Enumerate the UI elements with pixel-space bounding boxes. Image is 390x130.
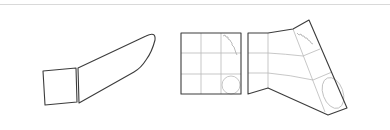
diagram-canvas [0,0,390,130]
elongated-shape [78,34,155,103]
warped-grid-outline [248,20,347,115]
grid-circle [222,76,240,94]
grid-square [181,33,241,94]
left-pair [43,34,155,105]
small-square [43,68,77,105]
warped-grid [248,20,348,115]
wavy-line [223,35,237,55]
warped-wavy-line [297,33,313,44]
grid-square-outline [181,33,241,94]
